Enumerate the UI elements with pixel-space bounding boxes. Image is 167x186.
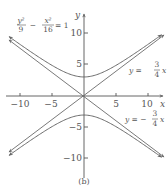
asym-pos-den: 4	[155, 70, 160, 79]
equation-label: y² 9 − x² 16 = 1	[16, 16, 68, 34]
asym-pos-num: 3	[155, 60, 160, 69]
x-axis-label: x	[160, 99, 165, 109]
y-tick-label: 5	[76, 59, 82, 69]
eq-x-den: 16	[43, 25, 53, 34]
figure-caption: (b)	[78, 177, 89, 186]
y-tick-label: −10	[63, 153, 82, 163]
asymptote-positive-label: y = 3 4 x	[128, 60, 167, 79]
y-tick-label: −5	[69, 122, 83, 132]
eq-y-den: 9	[19, 25, 24, 34]
eq-y-num: y²	[16, 16, 24, 25]
hyperbola-chart: −10 −5 5 10 10 5 −5 −10 x y y² 9 − x² 16…	[0, 0, 167, 186]
x-tick-label: 5	[113, 99, 119, 109]
eq-x-num: x²	[44, 16, 51, 25]
asym-neg-num: 3	[153, 109, 158, 118]
x-tick-label: 10	[141, 99, 153, 109]
eq-minus: −	[30, 21, 36, 30]
axes	[6, 14, 163, 178]
x-tick-label: −5	[44, 99, 58, 109]
eq-rhs: = 1	[55, 21, 68, 30]
asym-neg-var: x	[160, 115, 165, 124]
y-axis-label: y	[74, 10, 81, 20]
y-tick-label: 10	[71, 28, 83, 38]
asym-neg-den: 4	[153, 119, 158, 128]
asym-neg-prefix: y = −	[124, 115, 147, 124]
asym-pos-prefix: y =	[128, 66, 142, 75]
asym-pos-var: x	[162, 66, 167, 75]
asymptote-negative-label: y = − 3 4 x	[124, 109, 165, 128]
x-tick-label: −10	[11, 99, 30, 109]
